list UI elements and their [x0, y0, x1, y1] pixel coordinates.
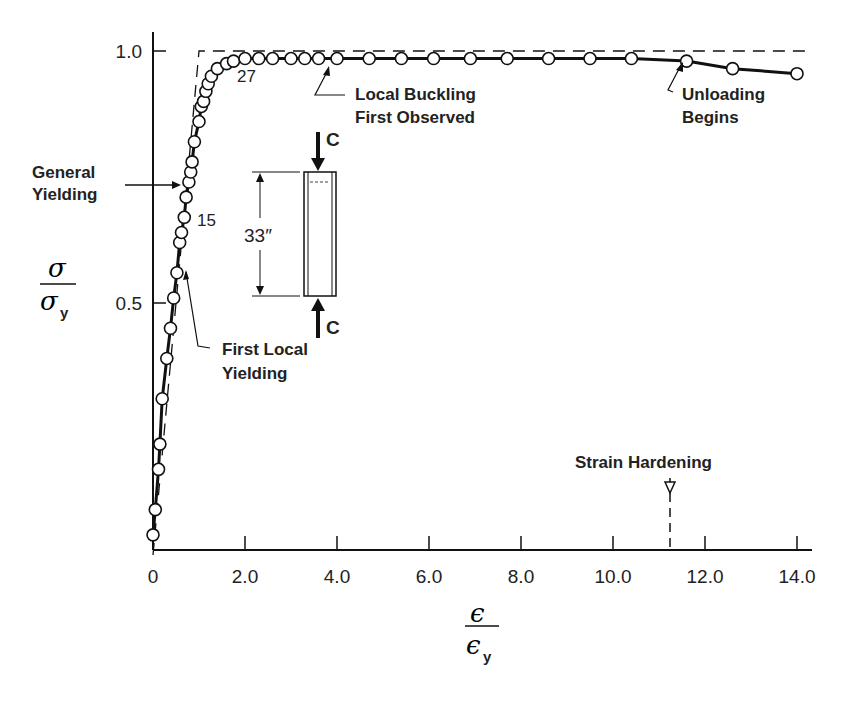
y-tick-label: 1.0: [116, 41, 142, 62]
data-point: [299, 53, 311, 65]
svg-text:First Local: First Local: [222, 340, 308, 359]
dimension-arrow-down-icon: [256, 286, 264, 295]
data-point: [147, 529, 159, 541]
x-tick-label: 6.0: [416, 566, 442, 587]
x-axis-label: ϵ ϵ y: [465, 598, 499, 665]
data-point: [501, 53, 513, 65]
data-point: [625, 53, 637, 65]
svg-text:Unloading: Unloading: [682, 85, 765, 104]
stress-strain-chart: 02.04.06.08.010.012.014.0 0.51.0 Strain …: [0, 0, 851, 704]
svg-text:Yielding: Yielding: [222, 364, 288, 383]
annotation-general-yielding: General Yielding: [32, 163, 181, 204]
point-label-15: 15: [197, 211, 216, 230]
arrow-down-icon: [665, 482, 675, 493]
data-point: [161, 352, 173, 364]
x-tick-label: 2.0: [232, 566, 258, 587]
y-ticks: 0.51.0: [116, 41, 166, 314]
data-point: [168, 292, 180, 304]
annotation-local-buckling: Local Buckling First Observed: [315, 66, 476, 127]
data-point: [395, 53, 407, 65]
data-point: [188, 136, 200, 148]
load-arrow-down-icon: [311, 158, 325, 171]
x-tick-label: 14.0: [779, 566, 816, 587]
svg-text:General: General: [32, 163, 95, 182]
data-point: [228, 55, 240, 67]
svg-text:y: y: [60, 304, 69, 321]
column-specimen-diagram: 33″ C C: [244, 129, 340, 338]
y-axis-label: σ σ y: [40, 253, 76, 321]
svg-text:Begins: Begins: [682, 108, 739, 127]
svg-text:σ: σ: [48, 253, 67, 283]
data-point: [727, 63, 739, 75]
x-tick-label: 8.0: [508, 566, 534, 587]
load-label-bottom: C: [326, 317, 340, 338]
x-tick-label: 12.0: [687, 566, 724, 587]
data-point: [464, 53, 476, 65]
arrow-right-icon: [172, 181, 181, 189]
data-point: [180, 191, 192, 203]
data-point: [154, 438, 166, 450]
arrow-up-icon: [676, 62, 683, 72]
load-arrow-up-icon: [311, 298, 325, 311]
data-point: [153, 463, 165, 475]
svg-text:y: y: [483, 648, 492, 665]
data-point: [253, 53, 265, 65]
y-tick-label: 0.5: [116, 293, 142, 314]
data-point: [584, 53, 596, 65]
data-point: [313, 53, 325, 65]
data-point: [164, 322, 176, 334]
data-point: [331, 53, 343, 65]
svg-text:Yielding: Yielding: [32, 185, 98, 204]
x-tick-label: 0: [148, 566, 159, 587]
arrow-up-icon: [183, 270, 189, 280]
point-label-27: 27: [237, 67, 256, 86]
svg-text:First Observed: First Observed: [355, 108, 475, 127]
data-point: [363, 53, 375, 65]
data-point: [178, 211, 190, 223]
dimension-arrow-up-icon: [256, 173, 264, 182]
svg-text:ϵ: ϵ: [466, 630, 481, 660]
data-point: [428, 53, 440, 65]
data-point: [285, 53, 297, 65]
specimen-length-label: 33″: [244, 225, 272, 246]
data-point: [156, 393, 168, 405]
svg-text:Local Buckling: Local Buckling: [355, 85, 476, 104]
annotation-first-local-yielding: First Local Yielding: [183, 270, 308, 383]
load-label-top: C: [326, 129, 340, 150]
svg-text:σ: σ: [40, 286, 59, 316]
data-point: [176, 226, 188, 238]
data-point: [186, 156, 198, 168]
data-point: [239, 53, 251, 65]
data-point: [193, 116, 205, 128]
arrow-up-icon: [323, 66, 330, 76]
data-point: [791, 68, 803, 80]
strain-hardening-label: Strain Hardening: [575, 453, 712, 472]
x-tick-label: 4.0: [324, 566, 350, 587]
data-point: [543, 53, 555, 65]
data-point: [171, 267, 183, 279]
svg-text:ϵ: ϵ: [470, 598, 485, 628]
data-point: [267, 53, 279, 65]
annotation-unloading: Unloading Begins: [668, 62, 765, 127]
strain-hardening-marker: Strain Hardening: [575, 453, 712, 548]
x-ticks: 02.04.06.08.010.012.014.0: [148, 536, 816, 587]
x-tick-label: 10.0: [595, 566, 632, 587]
data-point: [149, 504, 161, 516]
